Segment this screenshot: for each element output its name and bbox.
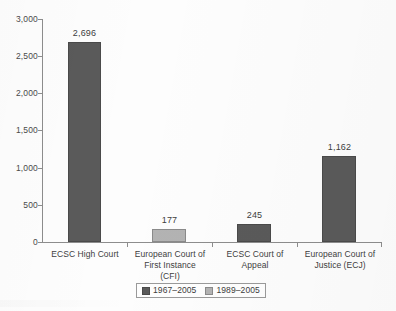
legend-swatch-icon-1967-2005 [142, 287, 150, 295]
legend-label-1967-2005: 1967–2005 [153, 286, 196, 295]
y-tick-2500 [38, 56, 42, 57]
y-tick-label-2000: 2,000 [0, 89, 38, 98]
bar-value-european-court-of-justice: 1,162 [309, 143, 370, 152]
y-tick-label-2500: 2,500 [0, 52, 38, 61]
y-axis-line [42, 19, 43, 243]
bar-chart-figure: 3,000 2,500 2,000 1,500 1,000 500 0 2,69… [0, 0, 396, 311]
x-category-label-ecsc-high-court: ECSC High Court [43, 249, 127, 260]
plot-area: 3,000 2,500 2,000 1,500 1,000 500 0 2,69… [0, 0, 396, 311]
y-tick-label-500: 500 [0, 201, 38, 210]
bar-ecsc-court-of-appeal [237, 224, 271, 242]
bar-value-ecsc-high-court: 2,696 [54, 29, 115, 38]
y-tick-1000 [38, 168, 42, 169]
legend-entry-1967-2005: 1967–2005 [142, 286, 196, 295]
y-tick-3000 [38, 19, 42, 20]
y-tick-0 [38, 242, 42, 243]
legend-label-1989-2005: 1989–2005 [216, 286, 259, 295]
y-tick-label-0: 0 [0, 238, 38, 247]
x-separator-tick-2 [212, 242, 213, 247]
y-tick-label-3000: 3,000 [0, 15, 38, 24]
legend-swatch-icon-1989-2005 [205, 287, 213, 295]
bar-value-ecsc-court-of-appeal: 245 [224, 211, 285, 220]
y-tick-label-1500: 1,500 [0, 126, 38, 135]
chart-legend: 1967–2005 1989–2005 [136, 283, 266, 298]
bar-value-court-of-first-instance: 177 [139, 216, 200, 225]
bar-court-of-first-instance [152, 229, 186, 242]
scan-artifact-smudge [0, 300, 140, 307]
legend-entry-1989-2005: 1989–2005 [205, 286, 259, 295]
x-category-label-court-of-first-instance: European Court of First Instance (CFI) [127, 249, 213, 282]
bar-ecsc-high-court [68, 42, 101, 242]
y-tick-label-1000: 1,000 [0, 164, 38, 173]
x-category-label-ecsc-court-of-appeal: ECSC Court of Appeal [212, 249, 298, 271]
x-separator-tick-3 [297, 242, 298, 247]
y-tick-500 [38, 205, 42, 206]
bar-european-court-of-justice [322, 156, 356, 242]
x-separator-tick-4 [381, 242, 382, 247]
y-tick-1500 [38, 130, 42, 131]
y-tick-2000 [38, 93, 42, 94]
x-separator-tick-1 [127, 242, 128, 247]
x-category-label-european-court-of-justice: European Court of Justice (ECJ) [297, 249, 383, 271]
